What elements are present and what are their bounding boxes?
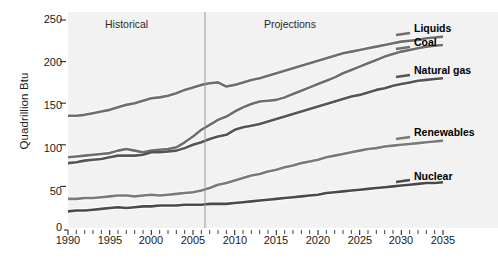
x-tick-1995: 1995: [90, 234, 130, 246]
series-lines-layer: [68, 37, 443, 212]
y-tick-200: 200: [16, 56, 62, 68]
y-tick-150: 150: [16, 99, 62, 111]
x-tick-2030: 2030: [381, 234, 421, 246]
x-tick-2005: 2005: [173, 234, 213, 246]
series-label-renewables: Renewables: [414, 126, 475, 138]
y-tick-250: 250: [16, 13, 62, 25]
y-tick-0: 0: [16, 221, 62, 233]
x-tick-2000: 2000: [131, 234, 171, 246]
legend-line-swatches: [396, 33, 410, 182]
legend-swatch-renewables: [396, 137, 410, 139]
series-label-nuclear: Nuclear: [414, 170, 453, 182]
legend-swatch-natural-gas: [396, 75, 410, 77]
historical-region-label: Historical: [105, 18, 148, 30]
series-label-liquids: Liquids: [414, 22, 451, 34]
x-tick-1990: 1990: [48, 234, 88, 246]
series-label-coal: Coal: [414, 36, 437, 48]
x-tick-2020: 2020: [298, 234, 338, 246]
projections-region-label: Projections: [264, 18, 316, 30]
y-axis-tick-labels: 250 200 150 100 50 0: [10, 0, 62, 259]
x-tick-2015: 2015: [256, 234, 296, 246]
energy-consumption-chart: Quadrillion Btu 250 200 150 100 50 0 199…: [0, 0, 498, 259]
x-tick-2035: 2035: [423, 234, 463, 246]
series-label-natural-gas: Natural gas: [414, 64, 471, 76]
x-tick-2010: 2010: [215, 234, 255, 246]
y-tick-50: 50: [16, 185, 62, 197]
x-tick-2025: 2025: [340, 234, 380, 246]
legend-swatch-nuclear: [396, 180, 410, 182]
series-halo-coal: [68, 45, 443, 157]
y-tick-100: 100: [16, 142, 62, 154]
legend-swatch-liquids: [396, 33, 410, 35]
